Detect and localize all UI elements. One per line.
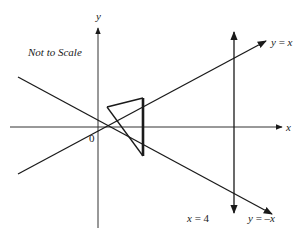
not-to-scale-note: Not to Scale — [27, 46, 82, 58]
label-x-equals-4-rhs: 4 — [204, 212, 210, 224]
coordinate-diagram: Not to Scale y x 0 y = x y = –x x = 4 — [0, 0, 301, 236]
label-y-equals-x-rhs: x — [287, 36, 293, 48]
label-y-equals-x-eq: = — [276, 36, 288, 48]
triangle-upper-side — [107, 98, 143, 107]
label-y-equals-neg-x: y = –x — [247, 212, 275, 224]
origin-label: 0 — [89, 132, 95, 144]
triangle-lower-side — [107, 107, 143, 156]
label-y-equals-x: y = x — [270, 36, 293, 48]
x-axis-label: x — [285, 121, 291, 133]
label-x-equals-4-eq: = — [192, 212, 204, 224]
label-y-equals-neg-x-rhs: x — [269, 212, 275, 224]
label-x-equals-4: x = 4 — [186, 212, 210, 224]
label-y-equals-neg-x-eq: = – — [253, 212, 271, 224]
y-axis-label: y — [95, 10, 101, 22]
